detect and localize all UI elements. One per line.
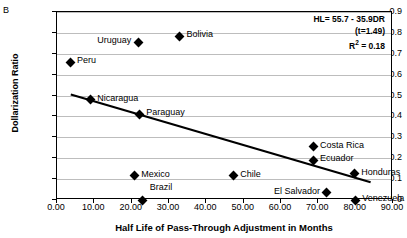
data-point-label: Bolivia bbox=[186, 29, 213, 39]
plot-area: PeruUruguayBoliviaNicaraguaParaguayMexic… bbox=[56, 11, 392, 199]
x-tick-label: 20.00 bbox=[111, 202, 151, 212]
x-tick-label: 90.00 bbox=[372, 202, 407, 212]
x-tick-label: 70.00 bbox=[297, 202, 337, 212]
data-point-label: El Salvador bbox=[274, 186, 320, 196]
data-point-label: Nicaragua bbox=[97, 93, 138, 103]
data-point-label: Venezuela bbox=[362, 193, 404, 203]
data-point-label: Honduras bbox=[361, 167, 400, 177]
r-squared-line: R2 = 0.18 bbox=[313, 37, 385, 52]
x-tick-label: 60.00 bbox=[260, 202, 300, 212]
regression-annotation: HL= 55.7 - 35.9DR (t=1.49) R2 = 0.18 bbox=[313, 13, 385, 52]
x-tick-label: 30.00 bbox=[148, 202, 188, 212]
x-tick-label: 0.00 bbox=[36, 202, 76, 212]
x-tick-label: 10.00 bbox=[73, 202, 113, 212]
data-point-label: Peru bbox=[77, 55, 96, 65]
data-point-label: Ecuador bbox=[320, 153, 354, 163]
r-squared-value: = 0.18 bbox=[359, 41, 385, 51]
y-axis-title: Dollarization Ratio bbox=[10, 45, 20, 141]
x-tick-label: 40.00 bbox=[185, 202, 225, 212]
equation-line-1: HL= 55.7 - 35.9DR bbox=[313, 13, 385, 25]
data-point-label: Costa Rica bbox=[320, 140, 364, 150]
panel-label: B bbox=[3, 5, 9, 15]
equation-line-2: (t=1.49) bbox=[313, 25, 385, 37]
data-point-label: Uruguay bbox=[97, 35, 131, 45]
data-point-label: Mexico bbox=[141, 169, 170, 179]
scatter-chart: B Dollarization Ratio Half Life of Pass-… bbox=[0, 0, 407, 238]
x-tick-label: 50.00 bbox=[223, 202, 263, 212]
data-point-label: Paraguay bbox=[146, 107, 185, 117]
data-point-label: Chile bbox=[240, 169, 261, 179]
x-axis-title: Half Life of Pass-Through Adjustment in … bbox=[56, 222, 392, 233]
